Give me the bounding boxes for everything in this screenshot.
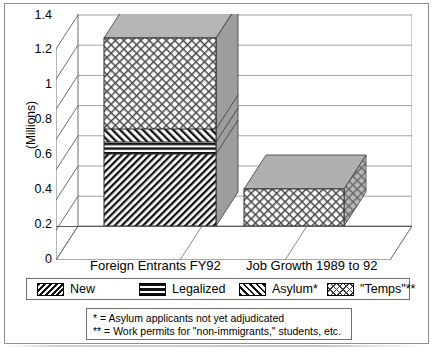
axis-depth-ticks (56, 15, 78, 260)
x-category-label-0: Foreign Entrants FY92 (90, 258, 221, 273)
legend-label-asylum: Asylum* (272, 283, 318, 296)
bar-segment-temps-2 (244, 189, 344, 226)
x-category-label-1: Job Growth 1989 to 92 (246, 258, 378, 273)
legend-label-temps: "Temps"** (360, 283, 415, 296)
legend-label-new: New (70, 283, 95, 296)
bar-foreign-entrants (104, 14, 238, 226)
chart-page: (Millions) 1.4 1.2 1 0.8 0.6 0.4 0.2 0 (0, 0, 437, 357)
legend-label-legalized: Legalized (172, 283, 226, 296)
footnote-double-asterisk: ** = Work permits for "non-immigrants," … (93, 325, 351, 338)
x-axis-labels: Foreign Entrants FY92 Job Growth 1989 to… (56, 258, 412, 276)
plot-svg (56, 14, 412, 260)
y-tick-label-0.2: 0.2 (22, 218, 52, 231)
bar-job-growth (244, 155, 366, 226)
scan-shadow (6, 345, 426, 347)
legend-swatch-temps-icon (327, 283, 354, 296)
legend-item-new: New (37, 282, 95, 297)
y-tick-label-0: 0 (22, 253, 52, 266)
y-axis: (Millions) 1.4 1.2 1 0.8 0.6 0.4 0.2 0 (16, 14, 52, 260)
y-tick-label-0.6: 0.6 (22, 148, 52, 161)
y-tick-label-0.4: 0.4 (22, 183, 52, 196)
footnotes: * = Asylum applicants not yet adjudicate… (86, 308, 352, 340)
legend: New Legalized Asylum* "Temps"** (26, 278, 410, 300)
legend-swatch-new-icon (37, 283, 64, 296)
legend-item-temps: "Temps"** (327, 282, 415, 297)
legend-swatch-legalized-icon (139, 283, 166, 296)
bar-segment-temps (104, 38, 216, 129)
legend-swatch-asylum-icon (239, 283, 266, 296)
y-tick-label-1.4: 1.4 (22, 9, 52, 22)
bar-segment-legalized (104, 142, 216, 154)
legend-item-legalized: Legalized (139, 282, 226, 297)
bar-segment-asylum (104, 129, 216, 142)
footnote-asterisk: * = Asylum applicants not yet adjudicate… (93, 312, 351, 325)
bar-segment-new (104, 154, 216, 226)
plot-area (56, 14, 412, 260)
legend-item-asylum: Asylum* (239, 282, 318, 297)
y-tick-label-1: 1 (22, 78, 52, 91)
y-tick-label-1.2: 1.2 (22, 43, 52, 56)
y-tick-label-0.8: 0.8 (22, 113, 52, 126)
